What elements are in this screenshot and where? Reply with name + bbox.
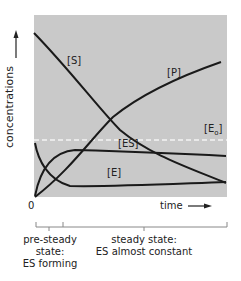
e0-label-main: [E [204, 123, 214, 134]
steady-state-label: steady state: ES almost constant [96, 234, 192, 258]
plot-area [34, 15, 227, 197]
p-curve-label: [P] [167, 67, 181, 79]
e-curve-label: [E] [107, 167, 121, 179]
steady-line-2: ES almost constant [96, 246, 192, 258]
phase-bracket [36, 222, 227, 231]
x-axis-arrow-icon [204, 204, 212, 209]
x-axis-label: time [160, 200, 183, 212]
y-axis-arrow-icon [14, 30, 19, 38]
origin-label: 0 [28, 200, 34, 212]
pre-steady-line-3: ES forming [23, 258, 78, 270]
es-curve-label: [ES] [118, 138, 138, 150]
y-axis-label: concentrations [3, 66, 16, 148]
steady-line-1: steady state: [96, 234, 192, 246]
s-curve-label: [S] [67, 55, 81, 67]
pre-steady-line-2: state: [23, 246, 78, 258]
pre-steady-state-label: pre-steady state: ES forming [23, 234, 78, 270]
e0-label: [Eo] [204, 123, 222, 139]
pre-steady-line-1: pre-steady [23, 234, 78, 246]
e0-label-close: ] [219, 123, 223, 134]
